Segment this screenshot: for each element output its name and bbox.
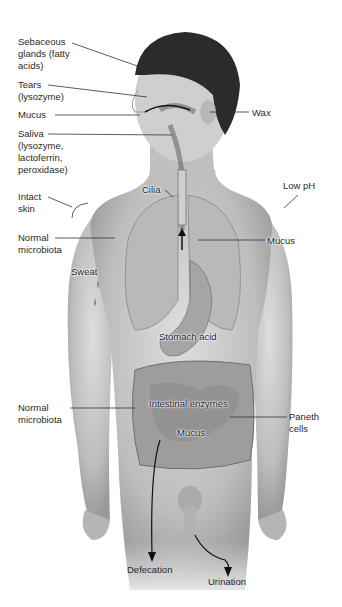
label-urination: Urination [208,576,246,588]
label-saliva: Saliva (lysozyme, lactoferrin, peroxidas… [18,128,68,176]
label-low-ph: Low pH [283,180,315,192]
label-intact-skin: Intact skin [18,191,41,215]
label-tears: Tears (lysozyme) [18,79,64,103]
label-mucus-lungs: Mucus [267,235,295,247]
label-normal-microbiota-upper: Normal microbiota [18,232,62,256]
label-sweat: Sweat [71,266,97,278]
label-defecation: Defecation [127,564,172,576]
label-paneth-cells: Paneth cells [289,411,319,435]
label-mucus-intestine: Mucus [177,427,205,439]
label-cilia: Cilia [142,184,160,196]
label-mucus-nose: Mucus [18,109,46,121]
diagram-stage: Sebaceous glands (fatty acids) Tears (ly… [0,0,342,607]
label-sebaceous-glands: Sebaceous glands (fatty acids) [18,36,70,72]
label-wax: Wax [252,107,271,119]
label-normal-microbiota-lower: Normal microbiota [18,402,62,426]
label-stomach-acid: Stomach acid [159,331,217,343]
label-intestinal-enzymes: Intestinal enzymes [149,398,228,410]
